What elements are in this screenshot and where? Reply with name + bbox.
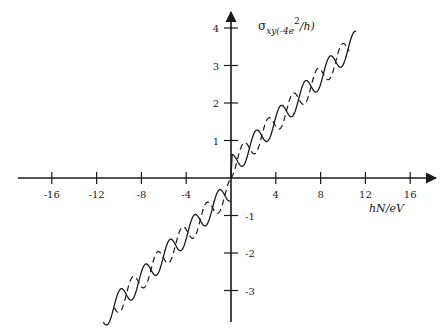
y-tick-label: -1 [245,211,255,222]
x-axis-title: hN/eV [369,202,405,215]
y-tick-label: -2 [245,248,255,259]
y-tick-label: 3 [213,61,219,72]
y-axis-title: σxy(-4e2/h) [258,16,315,36]
axes [18,12,436,322]
x-tick-label: 8 [317,189,323,200]
x-tick-label: -4 [181,189,191,200]
y-tick-label: 4 [213,23,219,34]
x-tick-label: -8 [137,189,147,200]
solid-series-neg [103,190,230,325]
ticks: -16-12-8-4481216-3-2-11234 [44,23,417,297]
solid-series-pos [231,31,356,178]
x-tick-label: -12 [89,189,105,200]
y-tick-label: 1 [213,136,219,147]
x-tick-label: -16 [44,189,60,200]
dashed-series-neg [115,178,232,313]
x-tick-label: 4 [273,189,279,200]
y-tick-label: -3 [245,286,255,297]
x-tick-label: 16 [404,189,417,200]
y-tick-label: 2 [213,98,219,109]
chart: -16-12-8-4481216-3-2-11234 σxy(-4e2/h) h… [0,0,447,332]
labels: σxy(-4e2/h) hN/eV [258,16,405,215]
x-tick-label: 12 [359,189,372,200]
dashed-series-pos [231,44,349,179]
